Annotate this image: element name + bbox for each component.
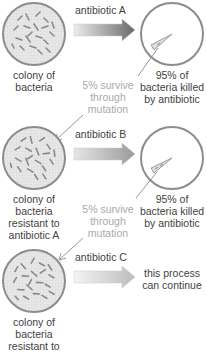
colony-circle-2	[3, 127, 65, 189]
killed-circle-1	[141, 3, 203, 65]
colony-label-2-line-1: colony of	[0, 193, 68, 205]
colony-label-2-line-3: resistant to	[0, 217, 68, 229]
result-label-1: 95% of bacteria killed by antibiotic	[137, 69, 207, 105]
colony-label-3-line-3: resistant to	[0, 340, 68, 352]
arrow-antibiotic-c	[74, 266, 135, 288]
result-label-3-line-2: can continue	[137, 279, 207, 291]
colony-circle-3	[3, 250, 65, 312]
diagram-graphics	[0, 0, 207, 356]
colony-label-3: colony of bacteria resistant to	[0, 316, 68, 352]
survive-label-2: 5% survive through mutation	[78, 203, 138, 239]
result-label-3-line-1: this process	[137, 267, 207, 279]
result-label-2: 95% of bacteria killed by antibiotic	[137, 193, 207, 229]
result-label-2-line-1: 95% of	[137, 193, 207, 205]
colony-label-1-line-1: colony of	[0, 69, 68, 81]
arrow-antibiotic-a	[74, 19, 135, 41]
survive-label-1-line-1: 5% survive	[78, 79, 138, 91]
antibiotic-a-label: antibiotic A	[75, 4, 126, 16]
survive-label-1-line-3: mutation	[78, 103, 138, 115]
result-label-2-line-2: bacteria killed	[137, 205, 207, 217]
antibiotic-c-label: antibiotic C	[75, 251, 127, 263]
result-label-1-line-3: by antibiotic	[137, 93, 207, 105]
colony-label-2: colony of bacteria resistant to antibiot…	[0, 193, 68, 241]
colony-label-3-line-2: bacteria	[0, 328, 68, 340]
survive-label-1: 5% survive through mutation	[78, 79, 138, 115]
colony-label-2-line-2: bacteria	[0, 205, 68, 217]
result-label-1-line-1: 95% of	[137, 69, 207, 81]
result-label-2-line-3: by antibiotic	[137, 217, 207, 229]
colony-circle-1	[3, 3, 65, 65]
survive-label-2-line-1: 5% survive	[78, 203, 138, 215]
colony-label-1-line-2: bacteria	[0, 81, 68, 93]
antibiotic-b-label: antibiotic B	[75, 128, 126, 140]
colony-label-2-line-4: antibiotic A	[0, 229, 68, 241]
arrow-antibiotic-b	[74, 143, 135, 165]
survive-label-2-line-2: through	[78, 215, 138, 227]
colony-label-1: colony of bacteria	[0, 69, 68, 93]
antibiotic-resistance-diagram: antibiotic A colony of bacteria 95% of b…	[0, 0, 207, 356]
survive-label-1-line-2: through	[78, 91, 138, 103]
colony-label-3-line-1: colony of	[0, 316, 68, 328]
result-label-1-line-2: bacteria killed	[137, 81, 207, 93]
result-label-3: this process can continue	[137, 267, 207, 291]
survive-label-2-line-3: mutation	[78, 227, 138, 239]
